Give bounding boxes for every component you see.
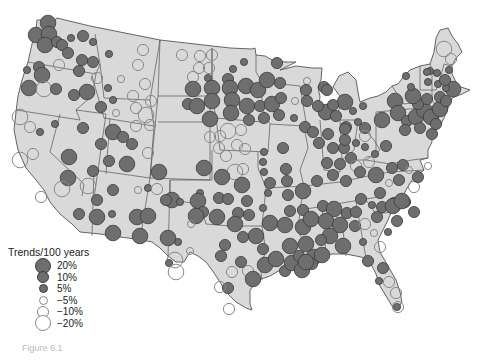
- legend-item-label: 5%: [57, 283, 71, 294]
- legend-item: 5%: [8, 283, 89, 295]
- increase-station-circle: [23, 66, 30, 73]
- increase-station-circle: [108, 210, 115, 217]
- legend-item: 10%: [8, 272, 89, 284]
- increase-station-circle: [439, 74, 450, 85]
- increase-station-circle: [330, 110, 341, 121]
- increase-station-circle: [109, 96, 116, 103]
- increase-station-circle: [407, 83, 414, 90]
- decrease-station-circle: [424, 162, 431, 169]
- increase-station-circle: [77, 30, 88, 41]
- increase-station-circle: [298, 254, 314, 270]
- increase-station-circle: [77, 122, 88, 133]
- increase-station-circle: [362, 255, 373, 266]
- increase-station-circle: [433, 69, 440, 76]
- increase-station-circle: [275, 92, 286, 103]
- increase-station-circle: [318, 213, 334, 229]
- increase-station-circle: [412, 171, 423, 182]
- increase-station-circle: [414, 122, 425, 133]
- increase-station-circle: [34, 67, 50, 83]
- increase-station-circle: [312, 100, 323, 111]
- increase-station-circle: [397, 159, 408, 170]
- increase-station-circle: [377, 262, 388, 273]
- increase-station-circle: [359, 238, 366, 245]
- increase-station-circle: [445, 66, 452, 73]
- decrease-station-circle: [168, 264, 184, 280]
- increase-station-circle: [68, 89, 79, 100]
- increase-station-circle: [223, 105, 239, 121]
- increase-station-circle: [215, 250, 226, 261]
- increase-station-circle: [227, 216, 243, 232]
- increase-station-circle: [424, 78, 431, 85]
- increase-station-circle: [67, 34, 74, 41]
- increase-station-circle: [160, 230, 176, 246]
- increase-station-circle: [144, 184, 151, 191]
- increase-station-circle: [303, 211, 319, 227]
- increase-station-circle: [368, 201, 375, 208]
- increase-station-circle: [355, 193, 366, 204]
- increase-station-circle: [349, 220, 360, 231]
- increase-station-circle: [103, 155, 114, 166]
- increase-station-circle: [240, 58, 247, 65]
- increase-station-circle: [374, 187, 385, 198]
- increase-station-circle: [384, 228, 391, 235]
- increase-station-circle: [243, 114, 254, 125]
- increase-station-circle: [126, 138, 137, 149]
- legend-item: 20%: [8, 260, 89, 272]
- increase-station-circle: [426, 128, 437, 139]
- legend: Trends/100 years 20%10%5%−5%−10%−20%: [8, 246, 89, 329]
- increase-station-circle: [73, 208, 84, 219]
- increase-station-circle: [21, 80, 37, 96]
- increase-station-circle: [257, 243, 268, 254]
- increase-station-circle: [386, 162, 397, 173]
- legend-item-label: 10%: [57, 272, 77, 283]
- increase-station-circle: [185, 81, 201, 97]
- increase-station-circle: [393, 174, 404, 185]
- increase-station-circle: [354, 118, 361, 125]
- increase-station-circle: [209, 209, 225, 225]
- increase-station-circle: [327, 169, 338, 180]
- increase-station-circle: [196, 160, 212, 176]
- legend-items: 20%10%5%−5%−10%−20%: [8, 260, 89, 329]
- increase-station-circle: [268, 251, 284, 267]
- increase-station-circle: [243, 209, 254, 220]
- increase-station-circle: [371, 150, 378, 157]
- increase-station-circle: [313, 137, 324, 148]
- increase-station-circle: [408, 206, 419, 217]
- increase-station-circle: [222, 282, 233, 293]
- increase-station-circle: [259, 204, 266, 211]
- increase-station-circle: [350, 206, 361, 217]
- increase-station-circle: [277, 142, 288, 153]
- increase-station-circle: [315, 234, 326, 245]
- increase-station-circle: [349, 107, 356, 114]
- increase-station-circle: [423, 68, 430, 75]
- increase-station-circle: [284, 205, 295, 216]
- increase-station-circle: [277, 217, 293, 233]
- increase-station-circle: [229, 65, 236, 72]
- increase-station-circle: [391, 215, 402, 226]
- increase-station-circle: [62, 47, 73, 58]
- increase-station-circle: [335, 238, 351, 254]
- increase-station-circle: [132, 228, 148, 244]
- increase-station-circle: [440, 95, 451, 106]
- increase-station-circle: [371, 211, 382, 222]
- increase-station-circle: [176, 198, 183, 205]
- filled-circle-icon: [34, 284, 52, 293]
- increase-station-circle: [339, 123, 350, 134]
- increase-station-circle: [290, 114, 297, 121]
- increase-station-circle: [368, 167, 384, 183]
- increase-station-circle: [89, 209, 105, 225]
- decrease-station-circle: [408, 181, 419, 192]
- increase-station-circle: [264, 189, 271, 196]
- increase-station-circle: [282, 189, 293, 200]
- increase-station-circle: [140, 208, 156, 224]
- increase-station-circle: [260, 148, 267, 155]
- increase-station-circle: [51, 120, 58, 127]
- increase-station-circle: [37, 37, 53, 53]
- figure-caption: Figure 6.1: [22, 343, 63, 353]
- increase-station-circle: [235, 256, 246, 267]
- increase-station-circle: [79, 84, 95, 100]
- increase-station-circle: [405, 88, 421, 104]
- increase-station-circle: [104, 84, 111, 91]
- increase-station-circle: [340, 175, 351, 186]
- increase-station-circle: [259, 72, 275, 88]
